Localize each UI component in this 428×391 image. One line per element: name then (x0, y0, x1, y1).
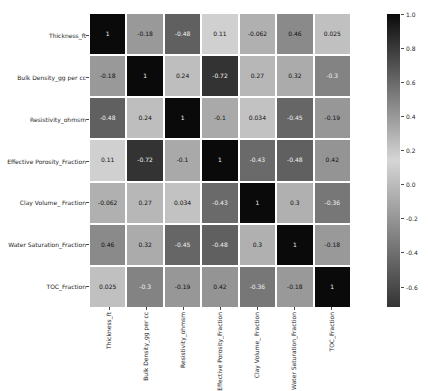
colorbar-tick-label: -0.4 (406, 249, 418, 256)
heatmap-cell: -0.48 (202, 225, 237, 265)
y-axis-tick (86, 161, 89, 162)
heatmap-cell: -0.1 (165, 140, 200, 180)
heatmap-cell: 1 (202, 140, 237, 180)
y-axis-label: TOC_Fraction (46, 283, 86, 290)
heatmap-cell: 0.27 (240, 56, 275, 96)
x-axis-label: TOC_Fraction (327, 312, 335, 352)
x-axis-label: Effective Porosity_Fraction (216, 312, 224, 391)
heatmap-cell: -0.1 (202, 98, 237, 138)
colorbar-tick (401, 287, 404, 288)
heatmap-cell: 0.24 (127, 98, 162, 138)
heatmap-cell: -0.36 (240, 267, 275, 307)
heatmap-cell: 0.42 (202, 267, 237, 307)
colorbar-tick-label: -0.2 (406, 215, 418, 222)
colorbar-gradient (387, 14, 400, 307)
heatmap-cell: -0.062 (90, 183, 125, 223)
y-axis-tick (86, 286, 89, 287)
heatmap-cell: 0.034 (240, 98, 275, 138)
heatmap-cell: 0.32 (277, 56, 312, 96)
y-axis-label: Bulk Density_gg per cc (17, 73, 86, 80)
x-axis-label: Resistivity_ohmsm (179, 312, 187, 368)
heatmap-cell: 0.24 (165, 56, 200, 96)
heatmap-cell: -0.48 (277, 140, 312, 180)
heatmap-cell: -0.48 (90, 98, 125, 138)
y-axis-tick (86, 119, 89, 120)
colorbar-tick (401, 82, 404, 83)
heatmap-cell: 1 (127, 56, 162, 96)
heatmap-cell: 0.3 (240, 225, 275, 265)
x-axis-tick (183, 307, 184, 310)
heatmap-cell: 0.46 (277, 14, 312, 54)
colorbar-tick-label: 0.6 (406, 79, 416, 86)
correlation-heatmap-figure: Thickness_ftBulk Density_gg per ccResist… (0, 0, 428, 391)
heatmap-cell: 1 (90, 14, 125, 54)
colorbar-tick-label: 0.8 (406, 45, 416, 52)
heatmap-cell: -0.3 (127, 267, 162, 307)
y-axis-label: Resistivity_ohmsm (30, 115, 86, 122)
colorbar-tick (401, 184, 404, 185)
x-axis-tick (331, 307, 332, 310)
y-axis-label: Clay Volume_ Fraction (20, 199, 86, 206)
y-axis-label: Water Saturation_Fraction (8, 241, 86, 248)
heatmap-cell: -0.36 (315, 183, 350, 223)
heatmap-cell: -0.18 (90, 56, 125, 96)
heatmap-cell: -0.43 (202, 183, 237, 223)
colorbar-tick-label: 0.2 (406, 147, 416, 154)
x-axis-tick (257, 307, 258, 310)
x-axis-tick (220, 307, 221, 310)
colorbar-tick (401, 116, 404, 117)
colorbar-tick (401, 14, 404, 15)
y-axis-label: Thickness_ft (49, 31, 86, 38)
y-axis-tick (86, 244, 89, 245)
heatmap-cell: 0.034 (165, 183, 200, 223)
heatmap-cell: 0.3 (277, 183, 312, 223)
heatmap-cell: 1 (277, 225, 312, 265)
heatmap-cell: -0.43 (240, 140, 275, 180)
heatmap-cell: 0.11 (90, 140, 125, 180)
heatmap-cell: -0.45 (277, 98, 312, 138)
heatmap-cell: 0.42 (315, 140, 350, 180)
heatmap-grid: 1-0.18-0.480.11-0.0620.460.025-0.1810.24… (90, 14, 350, 307)
heatmap-cell: 0.32 (127, 225, 162, 265)
heatmap-cell: 0.27 (127, 183, 162, 223)
heatmap-cell: -0.18 (277, 267, 312, 307)
heatmap-cell: -0.45 (165, 225, 200, 265)
y-axis-tick (86, 77, 89, 78)
colorbar: 1.00.80.60.40.20.0-0.2-0.4-0.6 (387, 14, 400, 307)
y-axis-label: Effective Porosity_Fraction (7, 157, 86, 164)
heatmap-cell: 1 (315, 267, 350, 307)
colorbar-tick-label: 0.4 (406, 113, 416, 120)
x-axis-tick (146, 307, 147, 310)
heatmap-cell: 0.025 (315, 14, 350, 54)
heatmap-cell: -0.72 (127, 140, 162, 180)
heatmap-cell: 0.025 (90, 267, 125, 307)
heatmap-cell: 1 (165, 98, 200, 138)
colorbar-tick-label: 0.0 (406, 181, 416, 188)
x-axis-tick (294, 307, 295, 310)
heatmap-cell: -0.19 (165, 267, 200, 307)
colorbar-tick-label: -0.6 (406, 283, 418, 290)
heatmap-cell: -0.72 (202, 56, 237, 96)
colorbar-tick (401, 48, 404, 49)
heatmap-cell: 0.11 (202, 14, 237, 54)
heatmap-cell: -0.19 (315, 98, 350, 138)
colorbar-tick (401, 150, 404, 151)
heatmap-cell: -0.3 (315, 56, 350, 96)
heatmap-cell: 1 (240, 183, 275, 223)
heatmap-cell: 0.46 (90, 225, 125, 265)
x-axis-label: Water Saturation_Fraction (290, 312, 298, 390)
y-axis-tick (86, 35, 89, 36)
colorbar-tick-label: 1.0 (406, 11, 416, 18)
colorbar-tick (401, 252, 404, 253)
y-axis-tick (86, 202, 89, 203)
x-axis-label: Bulk Density_gg per cc (142, 312, 150, 381)
heatmap-cell: -0.48 (165, 14, 200, 54)
x-axis-tick (109, 307, 110, 310)
colorbar-tick (401, 218, 404, 219)
heatmap-cell: -0.18 (315, 225, 350, 265)
x-axis-label: Thickness_ft (105, 312, 113, 349)
heatmap-cell: -0.18 (127, 14, 162, 54)
heatmap-cell: -0.062 (240, 14, 275, 54)
x-axis-label: Clay Volume_ Fraction (253, 312, 261, 378)
